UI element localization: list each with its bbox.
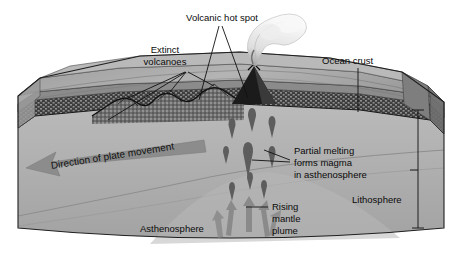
label-partial-melting-line3: in asthenosphere: [294, 169, 367, 180]
label-asthenosphere: Asthenosphere: [140, 223, 204, 234]
label-rising-plume-line2: mantle: [272, 213, 301, 224]
label-volcanic-hot-spot: Volcanic hot spot: [163, 12, 281, 23]
label-rising-plume-line1: Rising: [272, 201, 298, 212]
label-partial-melting-line1: Partial melting: [294, 145, 354, 156]
label-rising-plume-line3: plume: [272, 225, 298, 236]
hotspot-volcano-diagram: Volcanic hot spot Extinct volcanoes Ocea…: [0, 0, 462, 256]
label-lithosphere: Lithosphere: [352, 194, 402, 205]
label-partial-melting-line2: forms magma: [294, 157, 352, 168]
label-extinct-volcanoes-line1: Extinct: [128, 44, 202, 55]
diagram-canvas: [0, 0, 462, 256]
label-ocean-crust: Ocean crust: [322, 55, 373, 66]
label-extinct-volcanoes-line2: volcanoes: [118, 56, 212, 67]
